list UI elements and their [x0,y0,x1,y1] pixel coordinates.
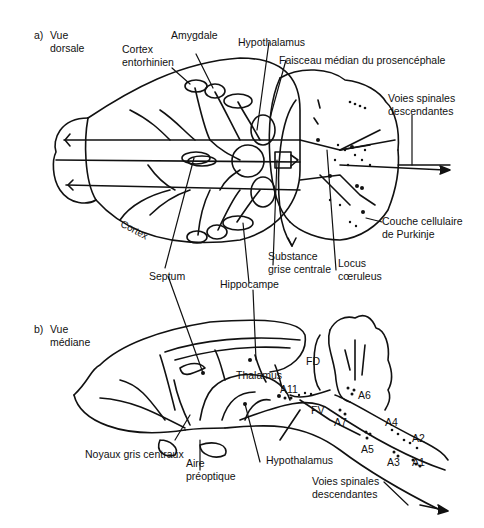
panel-a-letter: a) [34,29,43,41]
median-view-drawing [74,316,448,514]
label-voies-a-2: descendantes [388,105,453,117]
label-faisceau: Faisceau médian du prosencéphale [279,54,445,66]
brain-diagram [0,0,484,528]
label-a4: A4 [385,416,398,428]
panel-a-title-1: Vue [50,29,68,41]
label-a2: A2 [412,432,425,444]
dorsal-dots [316,101,371,228]
label-septum: Septum [149,270,185,282]
label-aire-1: Aire [186,457,205,469]
label-fv: FV [311,404,324,416]
label-a5: A5 [361,443,374,455]
label-locus-2: cœruleus [338,270,382,282]
label-voies-a-1: Voies spinales [388,92,455,104]
label-locus-1: Locus [338,257,366,269]
panel-b-letter: b) [34,323,43,335]
label-hippocampe: Hippocampe [220,278,279,290]
label-a3: A3 [387,456,400,468]
panel-b-title-1: Vue [50,323,68,335]
label-noyaux: Noyaux gris centraux [85,448,184,460]
label-fd: FD [306,355,320,367]
label-thalamus: Thalamus [236,369,282,381]
label-couche-2: de Purkinje [382,228,435,240]
panel-b-title-2: médiane [50,336,90,348]
label-hypothalamus-b: Hypothalamus [266,454,333,466]
label-a11: A11 [280,383,298,395]
label-a1: A1 [412,456,425,468]
label-substance-2: grise centrale [268,263,331,275]
label-cortex-ento-1: Cortex [122,43,153,55]
label-amygdale: Amygdale [171,29,218,41]
label-aire-2: préoptique [186,470,236,482]
label-cortex-ento-2: entorhinien [122,56,174,68]
label-a7: A7 [334,416,347,428]
label-hypothalamus-a: Hypothalamus [238,36,305,48]
panel-a-title-2: dorsale [50,42,84,54]
label-voies-b-1: Voies spinales [312,475,379,487]
label-substance-1: Substance [268,250,318,262]
label-voies-b-2: descendantes [312,488,377,500]
label-a6: A6 [358,389,371,401]
label-couche-1: Couche cellulaire [382,215,463,227]
